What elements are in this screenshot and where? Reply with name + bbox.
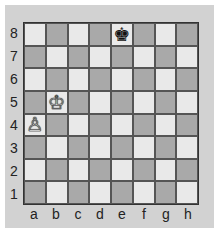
white-pawn-icon[interactable]: ♙ <box>26 115 43 134</box>
square-c5[interactable] <box>68 91 90 114</box>
rank-label-6: 6 <box>8 71 20 87</box>
square-e1[interactable] <box>111 181 133 204</box>
square-d6[interactable] <box>89 68 111 91</box>
black-king-icon[interactable]: ♚ <box>113 25 130 44</box>
rank-label-5: 5 <box>8 94 20 110</box>
square-b6[interactable] <box>46 68 68 91</box>
white-king-icon[interactable]: ♔ <box>48 93 65 112</box>
square-h3[interactable] <box>176 136 198 159</box>
square-f6[interactable] <box>133 68 155 91</box>
square-h2[interactable] <box>176 159 198 182</box>
square-b5[interactable]: ♔ <box>46 91 68 114</box>
square-a1[interactable] <box>24 181 46 204</box>
square-a5[interactable] <box>24 91 46 114</box>
square-g2[interactable] <box>155 159 177 182</box>
square-b3[interactable] <box>46 136 68 159</box>
chess-board: ♚♔♙ <box>23 22 199 205</box>
file-label-e: e <box>111 206 133 222</box>
square-c6[interactable] <box>68 68 90 91</box>
square-d4[interactable] <box>89 114 111 137</box>
square-h7[interactable] <box>176 46 198 69</box>
square-a6[interactable] <box>24 68 46 91</box>
square-e4[interactable] <box>111 114 133 137</box>
square-h6[interactable] <box>176 68 198 91</box>
square-g1[interactable] <box>155 181 177 204</box>
file-label-g: g <box>155 206 177 222</box>
square-b1[interactable] <box>46 181 68 204</box>
square-c8[interactable] <box>68 23 90 46</box>
square-g7[interactable] <box>155 46 177 69</box>
rank-label-7: 7 <box>8 48 20 64</box>
square-e8[interactable]: ♚ <box>111 23 133 46</box>
square-d2[interactable] <box>89 159 111 182</box>
square-e6[interactable] <box>111 68 133 91</box>
square-g3[interactable] <box>155 136 177 159</box>
square-f5[interactable] <box>133 91 155 114</box>
square-b7[interactable] <box>46 46 68 69</box>
square-c1[interactable] <box>68 181 90 204</box>
file-label-f: f <box>133 206 155 222</box>
square-d5[interactable] <box>89 91 111 114</box>
square-e2[interactable] <box>111 159 133 182</box>
square-e7[interactable] <box>111 46 133 69</box>
square-a8[interactable] <box>24 23 46 46</box>
file-label-c: c <box>67 206 89 222</box>
square-d3[interactable] <box>89 136 111 159</box>
rank-label-4: 4 <box>8 117 20 133</box>
square-b2[interactable] <box>46 159 68 182</box>
square-f8[interactable] <box>133 23 155 46</box>
square-h8[interactable] <box>176 23 198 46</box>
square-f7[interactable] <box>133 46 155 69</box>
file-label-d: d <box>89 206 111 222</box>
square-h4[interactable] <box>176 114 198 137</box>
square-g6[interactable] <box>155 68 177 91</box>
rank-label-8: 8 <box>8 25 20 41</box>
square-e3[interactable] <box>111 136 133 159</box>
rank-label-1: 1 <box>8 186 20 202</box>
rank-label-2: 2 <box>8 163 20 179</box>
square-e5[interactable] <box>111 91 133 114</box>
square-a7[interactable] <box>24 46 46 69</box>
square-a2[interactable] <box>24 159 46 182</box>
square-f1[interactable] <box>133 181 155 204</box>
rank-label-3: 3 <box>8 140 20 156</box>
square-g8[interactable] <box>155 23 177 46</box>
square-f2[interactable] <box>133 159 155 182</box>
square-d7[interactable] <box>89 46 111 69</box>
square-g5[interactable] <box>155 91 177 114</box>
square-c2[interactable] <box>68 159 90 182</box>
square-h5[interactable] <box>176 91 198 114</box>
square-c4[interactable] <box>68 114 90 137</box>
square-a4[interactable]: ♙ <box>24 114 46 137</box>
file-label-h: h <box>177 206 199 222</box>
square-h1[interactable] <box>176 181 198 204</box>
square-d8[interactable] <box>89 23 111 46</box>
square-b8[interactable] <box>46 23 68 46</box>
square-a3[interactable] <box>24 136 46 159</box>
square-f4[interactable] <box>133 114 155 137</box>
square-c3[interactable] <box>68 136 90 159</box>
square-c7[interactable] <box>68 46 90 69</box>
square-b4[interactable] <box>46 114 68 137</box>
square-f3[interactable] <box>133 136 155 159</box>
file-label-b: b <box>45 206 67 222</box>
file-label-a: a <box>23 206 45 222</box>
square-d1[interactable] <box>89 181 111 204</box>
square-g4[interactable] <box>155 114 177 137</box>
